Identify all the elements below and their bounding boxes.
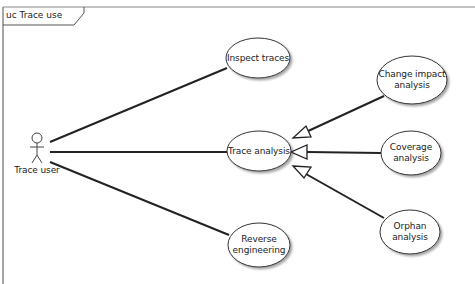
use-case-label-change[interactable]: Change impact analysis	[376, 69, 448, 91]
use-case-label-orphan[interactable]: Orphan analysis	[380, 221, 440, 243]
actor-trace-user	[30, 133, 44, 163]
associations	[50, 68, 229, 235]
association-reverse	[50, 162, 229, 235]
label-line-1: Change impact	[379, 69, 446, 79]
association-inspect	[50, 68, 227, 142]
generalizations	[306, 96, 384, 218]
arrowhead-change	[293, 126, 311, 138]
use-case-label-reverse[interactable]: Reverse engineering	[228, 234, 290, 256]
label-line-1: Coverage	[390, 142, 432, 152]
label-text: Inspect traces	[227, 53, 289, 63]
label-line-1: Reverse	[241, 234, 276, 244]
use-case-label-inspect[interactable]: Inspect traces	[226, 53, 290, 64]
generalization-change	[306, 96, 384, 132]
actor-label: Trace user	[12, 165, 62, 176]
frame-title: uc Trace use	[6, 10, 62, 20]
actor-head	[32, 133, 42, 143]
arrowhead-coverage	[291, 145, 307, 159]
label-line-1: Orphan	[394, 221, 427, 231]
label-line-2: analysis	[393, 153, 429, 163]
use-case-label-trace[interactable]: Trace analysis	[227, 146, 291, 157]
generalization-orphan	[306, 174, 384, 218]
label-text: Trace analysis	[228, 146, 290, 156]
label-line-2: analysis	[392, 232, 428, 242]
label-line-2: engineering	[233, 245, 286, 255]
use-case-label-coverage[interactable]: Coverage analysis	[381, 142, 441, 164]
label-line-2: analysis	[394, 80, 430, 90]
generalization-coverage	[307, 152, 381, 153]
